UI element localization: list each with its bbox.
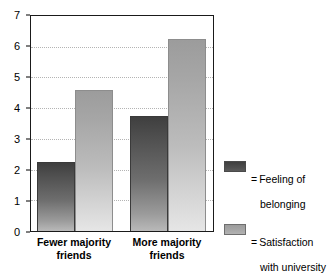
bar-fewer-satisfaction-with-university [75, 90, 113, 231]
x-axis: Fewer majority friends More majority fri… [30, 236, 214, 263]
bar-fewer-feeling-of-belonging [37, 162, 75, 231]
y-tick-label-1: 1 [14, 196, 20, 207]
x-group-label-more: More majority friends [117, 236, 217, 261]
y-tick-label-7: 7 [14, 10, 20, 21]
x-group-label-more-line2: friends [117, 249, 217, 262]
legend-label-feeling-of-belonging: =Feeling of belonging [251, 160, 306, 210]
legend-label-line2-2: with university [260, 261, 326, 273]
legend-equals-sign-1: = [251, 173, 257, 185]
y-tick-label-2: 2 [14, 165, 20, 176]
legend-entry-feeling-of-belonging: =Feeling of belonging [224, 160, 332, 210]
y-tick-label-4: 4 [14, 103, 20, 114]
legend-equals-sign-2: = [251, 236, 257, 248]
legend-swatch-light-icon [224, 224, 246, 235]
legend: =Feeling of belonging =Satisfaction with… [224, 160, 332, 277]
x-group-label-fewer: Fewer majority friends [24, 236, 124, 261]
bars-layer [31, 16, 213, 231]
legend-label-line2-1: belonging [260, 198, 306, 210]
y-tick-label-3: 3 [14, 134, 20, 145]
legend-entry-satisfaction-with-university: =Satisfaction with university [224, 223, 332, 273]
plot-area [30, 15, 214, 232]
bar-more-feeling-of-belonging [130, 116, 168, 231]
x-group-label-more-line1: More majority [117, 236, 217, 249]
x-group-label-fewer-line1: Fewer majority [24, 236, 124, 249]
bar-more-satisfaction-with-university [168, 39, 206, 231]
legend-label-line1-2: Satisfaction [259, 236, 313, 248]
y-tick-label-5: 5 [14, 72, 20, 83]
legend-label-line1-1: Feeling of [259, 173, 305, 185]
y-tick-label-0: 0 [14, 227, 20, 238]
y-axis: 7 6 5 4 3 2 1 0 [0, 0, 26, 263]
legend-label-satisfaction-with-university: =Satisfaction with university [251, 223, 326, 273]
y-tick-label-6: 6 [14, 41, 20, 52]
legend-swatch-dark-icon [224, 161, 246, 172]
x-group-label-fewer-line2: friends [24, 249, 124, 262]
